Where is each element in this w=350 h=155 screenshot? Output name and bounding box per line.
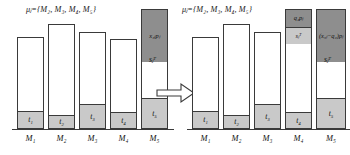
left-bar-m1-base: t₁	[18, 111, 43, 128]
right-bar-m3-base-label: t₃	[265, 113, 270, 121]
left-bar-m2-base: t₂	[49, 115, 74, 128]
right-bar-m1-base: t₁	[193, 111, 218, 128]
left-axis-label-m3-text: M₃	[88, 134, 98, 143]
left-bar-m4-base-label: t₄	[121, 117, 126, 125]
left-bar-m3-base-label: t₃	[90, 113, 95, 121]
left-bar-m2-base-label: t₂	[59, 118, 64, 126]
left-slack-annotation-text: sⱼᵀ	[149, 55, 156, 64]
right-axis-label-m4-text: M₄	[294, 134, 304, 143]
right-bar-m4-slack-block-label: sⱼᵀ	[296, 33, 302, 39]
left-bar-m2: t₂	[48, 24, 75, 129]
right-bar-m2-base: t₂	[224, 115, 249, 128]
right-axis-label-m3: M₃	[254, 134, 281, 143]
right-axis-line	[187, 129, 350, 130]
right-axis-label-m2: M₂	[223, 134, 250, 143]
right-set-label: μⱼ={M₂, M₃, M₄, M₅}	[182, 4, 252, 14]
left-bar-m3: t₃	[79, 32, 106, 129]
left-axis-label-m1: M₁	[17, 134, 44, 143]
right-bar-m4-base: t₄	[286, 112, 311, 128]
right-bar-m4-top-block-label: q₂pⱼ	[294, 15, 304, 21]
left-bar-m1: t₁	[17, 37, 44, 129]
left-axis-label-m2: M₂	[48, 134, 75, 143]
right-bar-m3: t₃	[254, 32, 281, 129]
right-axis-label-m3-text: M₃	[263, 134, 273, 143]
left-bar-m4: t₄	[110, 39, 137, 129]
right-bar-m5-top-block-label: (x₅ⱼ−q₂)pⱼ	[319, 33, 343, 39]
right-panel: μⱼ={M₂, M₃, M₄, M₅} t₁ t₂ t₃ q₂pⱼ	[174, 0, 348, 155]
right-slack-annotation-text: sⱼᵀ	[324, 55, 331, 64]
right-bar-m2: t₂	[223, 24, 250, 129]
left-bar-m3-base: t₃	[80, 104, 105, 128]
left-axis-label-m5: M₅	[141, 134, 168, 143]
right-bar-m2-base-label: t₂	[234, 118, 239, 126]
left-axis-label-m4-text: M₄	[119, 134, 129, 143]
right-axis-label-m2-text: M₂	[232, 134, 242, 143]
right-axis-label-m5: M₅	[316, 134, 346, 143]
right-axis-label-m1-text: M₁	[201, 134, 211, 143]
left-bar-m5-top-block-label: x₅ⱼpⱼ	[149, 33, 159, 39]
right-bar-m4: q₂pⱼ sⱼᵀ t₄	[285, 9, 312, 129]
left-slack-annotation: sⱼᵀ	[149, 55, 156, 64]
right-slack-annotation: sⱼᵀ	[324, 55, 331, 64]
right-bar-m1: t₁	[192, 37, 219, 129]
right-bar-m5-base-label: t₅	[329, 110, 334, 118]
right-bar-m4-base-label: t₄	[296, 117, 301, 125]
right-axis-label-m5-text: M₅	[326, 134, 336, 143]
right-axis-label-m1: M₁	[192, 134, 219, 143]
right-set-label-text: μⱼ={M₂, M₃, M₄, M₅}	[182, 5, 252, 14]
left-axis-line	[12, 129, 174, 130]
right-bar-m4-top-block: q₂pⱼ	[286, 10, 311, 27]
left-set-label: μⱼ={M₂, M₃, M₄, M₅}	[26, 4, 96, 14]
left-axis-label-m4: M₄	[110, 134, 137, 143]
left-bar-m5-base-label: t₅	[152, 110, 157, 118]
left-axis-label-m1-text: M₁	[26, 134, 36, 143]
left-set-label-text: μⱼ={M₂, M₃, M₄, M₅}	[26, 5, 96, 14]
right-bar-m3-base: t₃	[255, 104, 280, 128]
left-axis-label-m5-text: M₅	[150, 134, 160, 143]
left-panel: μⱼ={M₂, M₃, M₄, M₅} t₁ t₂ t₃ t₄	[0, 0, 174, 155]
right-axis-label-m4: M₄	[285, 134, 312, 143]
left-bar-m5: x₅ⱼpⱼ t₅	[141, 9, 168, 129]
left-bar-m1-base-label: t₁	[28, 116, 33, 124]
right-bar-m5: (x₅ⱼ−q₂)pⱼ t₅	[316, 9, 346, 129]
left-axis-label-m3: M₃	[79, 134, 106, 143]
right-bar-m5-base: t₅	[317, 98, 345, 128]
left-axis-label-m2-text: M₂	[57, 134, 67, 143]
left-bar-m4-base: t₄	[111, 112, 136, 128]
right-bar-m1-base-label: t₁	[203, 116, 208, 124]
right-bar-m4-slack-block: sⱼᵀ	[286, 27, 311, 44]
